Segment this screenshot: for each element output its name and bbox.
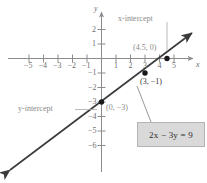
y-tick-label--6: −6 xyxy=(88,142,97,150)
x-intercept-point-label: (4.5, 0) xyxy=(133,44,156,52)
y-tick-label--5: −5 xyxy=(88,127,97,135)
x-tick-label--3: −3 xyxy=(53,62,62,70)
equation-box: 2x − 3y = 9 xyxy=(137,122,205,147)
y-tick-label-1: 1 xyxy=(92,40,96,48)
interior-point-label: (3, −1) xyxy=(140,78,162,86)
x-tick-label-4: 4 xyxy=(158,62,162,70)
y-intercept-point-label: (0, −3) xyxy=(106,104,128,112)
x-tick-label-2: 2 xyxy=(129,62,133,70)
x-intercept-callout: x-intercept xyxy=(118,15,153,23)
y-tick-label--1: −1 xyxy=(88,69,97,77)
x-tick-label--4: −4 xyxy=(39,62,48,70)
point-y-intercept xyxy=(99,99,104,104)
equation-text: 2x − 3y = 9 xyxy=(138,123,204,146)
y-tick-label--2: −2 xyxy=(88,84,97,92)
point-on-line xyxy=(142,70,147,75)
y-intercept-callout: y-intercept xyxy=(18,105,53,113)
equation-leader xyxy=(137,86,151,122)
y-tick-label--4: −4 xyxy=(88,113,97,121)
y-axis xyxy=(98,12,106,172)
x-tick-label-5: 5 xyxy=(172,62,176,70)
y-tick-label--3: −3 xyxy=(88,98,97,106)
x-tick-label-1: 1 xyxy=(114,62,118,70)
y-tick-label-2: 2 xyxy=(92,26,96,34)
x-tick-label-3: 3 xyxy=(143,62,147,70)
coordinate-plane xyxy=(0,0,207,183)
y-axis-name: y xyxy=(94,5,98,13)
graph-figure: −5 −4 −3 −2 −1 1 2 3 4 5 2 1 −1 −2 −3 −4… xyxy=(0,0,207,183)
x-tick-label--5: −5 xyxy=(24,62,33,70)
x-axis-name: x xyxy=(196,61,200,69)
point-x-intercept xyxy=(164,56,169,61)
x-tick-label--2: −2 xyxy=(68,62,77,70)
